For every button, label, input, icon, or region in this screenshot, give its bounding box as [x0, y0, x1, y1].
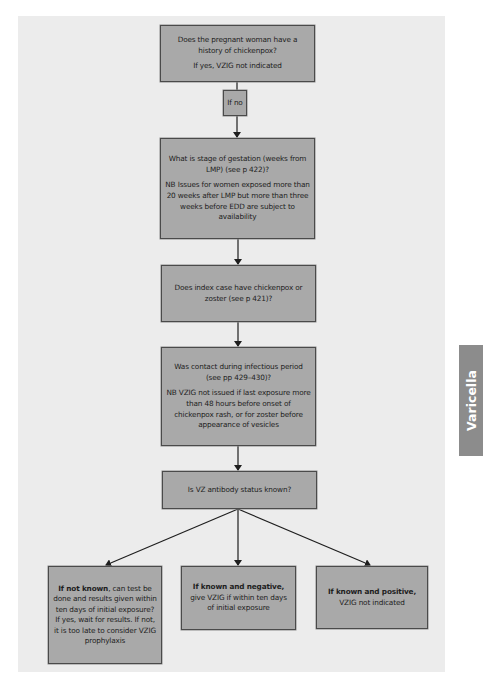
- node-bold-lead: If known and negative,: [193, 582, 284, 591]
- node-infectious-period: Was contact during infectious period (se…: [161, 347, 316, 446]
- section-tab-label: Varicella: [464, 370, 479, 431]
- node-question: What is stage of gestation (weeks from L…: [165, 154, 310, 175]
- node-gestation-stage: What is stage of gestation (weeks from L…: [160, 138, 315, 239]
- node-label: If no: [227, 98, 242, 109]
- edge-antibody-to-knownpositive: [238, 509, 370, 565]
- node-status-not-known: If not known, can test be done and resul…: [48, 566, 162, 664]
- node-known-positive: If known and positive, VZIG not indicate…: [316, 566, 428, 629]
- node-antibody-status: Is VZ antibody status known?: [162, 471, 317, 509]
- node-question: Was contact during infectious period (se…: [166, 362, 311, 383]
- node-question: Does index case have chickenpox or zoste…: [166, 283, 311, 304]
- node-index-case: Does index case have chickenpox or zoste…: [161, 265, 316, 322]
- node-note: NB VZIG not issued if last exposure more…: [166, 388, 311, 430]
- node-chickenpox-history: Does the pregnant woman have a history o…: [160, 25, 315, 82]
- node-text: If not known, can test be done and resul…: [53, 584, 157, 647]
- node-known-negative: If known and negative, give VZIG if with…: [181, 566, 296, 630]
- node-question: Does the pregnant woman have a history o…: [165, 35, 310, 56]
- node-rest: give VZIG if within ten days of initial …: [190, 593, 287, 613]
- node-bold-lead: If not known: [58, 584, 108, 593]
- node-text: If known and positive, VZIG not indicate…: [321, 587, 423, 608]
- node-rest: VZIG not indicated: [339, 598, 404, 607]
- node-if-no: If no: [223, 90, 247, 116]
- section-tab-varicella: Varicella: [459, 345, 483, 456]
- node-question: Is VZ antibody status known?: [188, 485, 291, 496]
- node-note: NB Issues for women exposed more than 20…: [165, 180, 310, 222]
- node-bold-lead: If known and positive,: [328, 587, 416, 596]
- node-text: If known and negative, give VZIG if with…: [186, 582, 291, 614]
- node-note: If yes, VZIG not indicated: [193, 61, 282, 72]
- edge-antibody-to-notknown: [106, 509, 238, 565]
